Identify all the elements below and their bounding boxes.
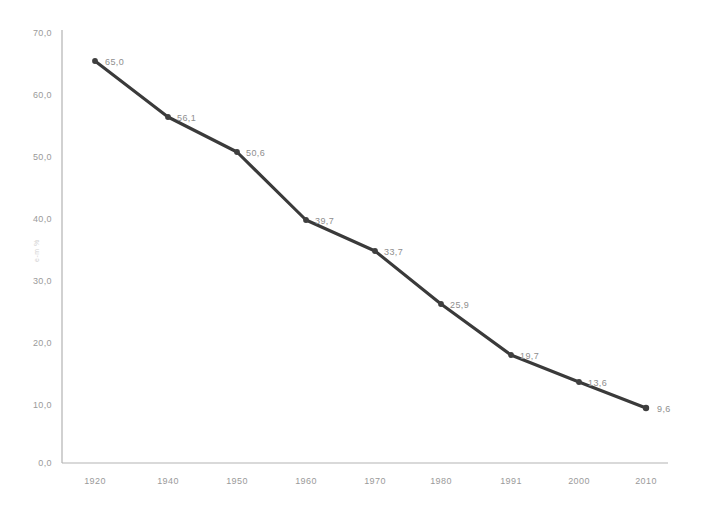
x-axis-tick-label: 1920 [65, 476, 125, 486]
y-axis-tick-label: 10,0 [0, 400, 52, 410]
data-point-label: 9,6 [657, 404, 671, 414]
y-axis-tick-label: 40,0 [0, 214, 52, 224]
data-point-marker [508, 352, 514, 358]
y-axis-tick-label: 70,0 [0, 28, 52, 38]
y-axis-tick-label: 60,0 [0, 90, 52, 100]
data-point-marker [438, 301, 444, 307]
data-point-label: 33,7 [384, 247, 403, 257]
data-point-label: 50,6 [246, 148, 265, 158]
x-axis-tick-label: 1940 [138, 476, 198, 486]
x-axis-tick-label: 1950 [207, 476, 267, 486]
data-point-label: 25,9 [450, 300, 469, 310]
data-point-label: 65,0 [105, 57, 124, 67]
data-point-label: 39,7 [315, 216, 334, 226]
data-point-marker [576, 379, 582, 385]
data-point-marker [303, 217, 309, 223]
x-axis-tick-label: 1991 [481, 476, 541, 486]
y-axis-tick-label: 50,0 [0, 152, 52, 162]
data-point-label: 13,6 [588, 378, 607, 388]
data-point-marker [372, 248, 378, 254]
data-point-label: 56,1 [177, 113, 196, 123]
data-point-marker [643, 405, 649, 411]
x-axis-tick-label: 2000 [549, 476, 609, 486]
data-point-marker [92, 58, 98, 64]
chart-plot-area [0, 0, 709, 507]
data-point-label: 19,7 [520, 351, 539, 361]
x-axis-tick-label: 1960 [276, 476, 336, 486]
x-axis-tick-label: 1980 [411, 476, 471, 486]
data-point-marker [234, 149, 240, 155]
line-chart: e-m % 70,0 60,0 50,0 40,0 30,0 20,0 10,0… [0, 0, 709, 507]
x-axis-tick-label: 2010 [616, 476, 676, 486]
x-axis-tick-label: 1970 [345, 476, 405, 486]
y-axis-title: e-m % [33, 239, 40, 262]
y-axis-tick-label: 30,0 [0, 276, 52, 286]
y-axis-tick-label: 0,0 [0, 458, 52, 468]
data-point-marker [165, 114, 171, 120]
y-axis-tick-label: 20,0 [0, 338, 52, 348]
